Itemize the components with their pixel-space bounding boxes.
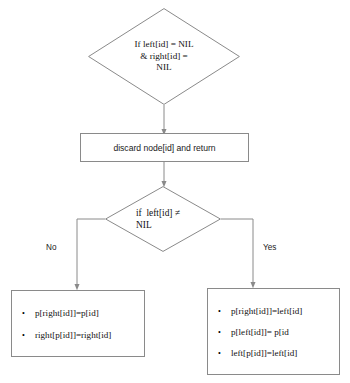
bullet-icon: •	[22, 332, 35, 340]
branch-label-no: No	[46, 243, 56, 252]
list-item-label: p[left[id]]= p[id	[231, 327, 335, 337]
bullet-icon: •	[218, 350, 231, 358]
list-item: • p[right[id]]=p[id]	[22, 308, 140, 318]
list-item-label: p[right[id]]=p[id]	[35, 308, 140, 318]
wire-no-branch	[77, 219, 105, 287]
process-discard-node: discard node[id] and return	[80, 133, 249, 162]
list-item-label: left[p[id]]=left[id]	[231, 348, 335, 358]
list-item: • right[p[id]]=right[id]	[22, 330, 140, 340]
list-item: • p[left[id]]= p[id	[218, 327, 335, 337]
decision-root-line-2: & right[id] =	[140, 51, 188, 63]
decision-root-line-3: NIL	[156, 62, 171, 74]
decision-left-check-line-2: NIL	[136, 219, 152, 231]
outcome-box-no: • p[right[id]]=p[id] • right[p[id]]=righ…	[11, 290, 145, 357]
decision-left-check-line-1: if left[id] ≠	[136, 207, 180, 219]
list-item: • left[p[id]]=left[id]	[218, 348, 335, 358]
bullet-icon: •	[218, 308, 231, 316]
list-item-label: p[right[id]]=left[id]	[231, 306, 335, 316]
decision-left-check: if left[id] ≠ NIL	[105, 186, 221, 252]
list-item-label: right[p[id]]=right[id]	[35, 330, 140, 340]
decision-left-check-text: if left[id] ≠ NIL	[105, 186, 221, 252]
flowchart-canvas: If left[id] = NIL & right[id] = NIL disc…	[0, 0, 350, 383]
decision-root: If left[id] = NIL & right[id] = NIL	[88, 8, 240, 105]
bullet-icon: •	[218, 329, 231, 337]
outcome-box-yes: • p[right[id]]=left[id] • p[left[id]]= p…	[207, 288, 340, 375]
branch-label-yes: Yes	[263, 243, 276, 252]
list-item: • p[right[id]]=left[id]	[218, 306, 335, 316]
bullet-icon: •	[22, 310, 35, 318]
decision-root-line-1: If left[id] = NIL	[134, 39, 193, 51]
decision-root-text: If left[id] = NIL & right[id] = NIL	[88, 8, 240, 105]
wire-yes-branch	[221, 219, 253, 285]
